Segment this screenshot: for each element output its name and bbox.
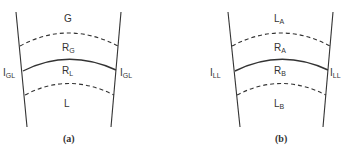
- panel-caption-a: (a): [63, 133, 75, 144]
- region-label-upper-mid: RA: [274, 43, 286, 56]
- region-label-bottom: LB: [274, 99, 284, 112]
- interface-label-left: ILL: [210, 68, 221, 81]
- region-label-lower-mid: RB: [274, 66, 286, 79]
- region-label-top: LA: [274, 14, 284, 27]
- lower-dashed-boundary: [237, 84, 326, 96]
- lower-dashed-boundary: [25, 84, 114, 96]
- interface-label-right: IGL: [120, 68, 132, 81]
- interface-label-left: IGL: [3, 68, 15, 81]
- interface-label-right: ILL: [330, 68, 341, 81]
- region-label-upper-mid: RG: [62, 43, 75, 56]
- panel-caption-b: (b): [275, 133, 287, 144]
- region-label-bottom: L: [64, 99, 70, 112]
- diagram-lines: [0, 0, 346, 151]
- region-label-lower-mid: RL: [62, 66, 73, 79]
- region-label-top: G: [64, 14, 72, 27]
